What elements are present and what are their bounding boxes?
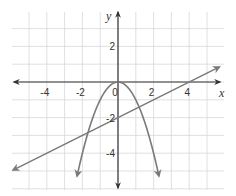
- x-tick-label: 0: [112, 87, 118, 98]
- x-tick-label: 2: [149, 87, 155, 98]
- coordinate-plane: -4-20242-2-4 x y: [0, 0, 236, 196]
- x-axis-label: x: [218, 86, 225, 100]
- y-tick-label: -2: [106, 113, 115, 124]
- x-tick-label: 4: [184, 87, 190, 98]
- y-axis-label: y: [105, 9, 112, 23]
- x-tick-label: -2: [76, 87, 85, 98]
- x-tick-label: -4: [40, 87, 49, 98]
- y-tick-label: -4: [106, 148, 115, 159]
- y-tick-label: 2: [109, 41, 115, 52]
- tick-labels: -4-20242-2-4: [40, 41, 190, 159]
